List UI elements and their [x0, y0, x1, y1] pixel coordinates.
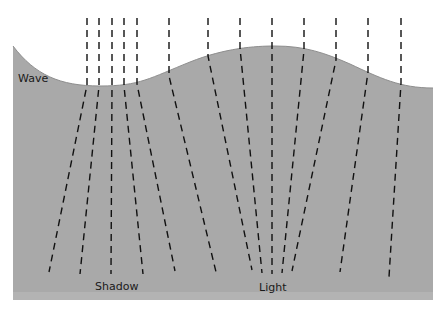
wave-refraction-diagram: Wave Shadow Light [0, 0, 446, 310]
wave-label: Wave [18, 72, 48, 85]
shadow-label: Shadow [95, 280, 138, 293]
light-label: Light [259, 281, 287, 294]
bottom-band [13, 292, 433, 300]
